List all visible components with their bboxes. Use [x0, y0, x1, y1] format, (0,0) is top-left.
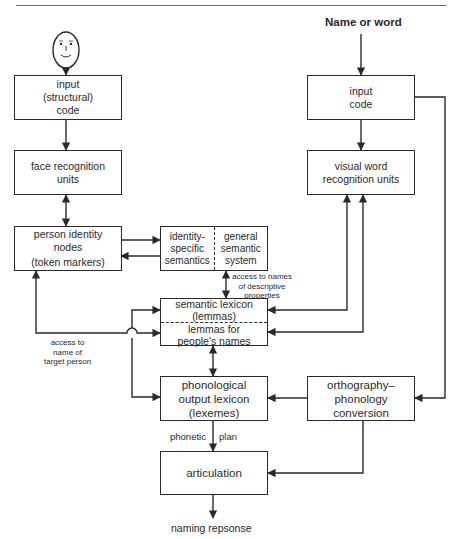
- face-recognition-units-box: face recognition units: [14, 150, 122, 195]
- descriptive-properties-label: access to names of descriptive propertie…: [232, 272, 292, 301]
- visual-word-recognition-units-box: visual word recognition units: [307, 150, 415, 195]
- naming-response-output: naming repsonse: [171, 522, 252, 534]
- phonetic-label: phonetic: [170, 432, 206, 442]
- semantic-lexicon-box: semantic lexicon (lemmas) lemmas for peo…: [160, 298, 268, 346]
- semantic-lexicon-lemmas: semantic lexicon (lemmas): [161, 298, 267, 322]
- target-person-label: access to name of target person: [44, 338, 91, 367]
- lemmas-for-peoples-names: lemmas for people's names: [161, 323, 267, 347]
- semantics-box: identity- specific semantics general sem…: [160, 226, 268, 271]
- phonological-output-lexicon-box: phonological output lexicon (lexemes): [160, 376, 268, 421]
- word-input-title: Name or word: [325, 16, 402, 28]
- general-semantic-system: general semantic system: [215, 231, 268, 267]
- orthography-phonology-conversion-box: orthography– phonology conversion: [307, 376, 415, 421]
- face-icon: [53, 32, 79, 68]
- identity-specific-semantics: identity- specific semantics: [161, 231, 214, 267]
- word-input-code-box: input code: [307, 75, 415, 120]
- face-input-code-box: input (structural) code: [14, 75, 122, 120]
- articulation-box: articulation: [160, 451, 268, 495]
- person-identity-nodes-box: person identity nodes (token markers): [14, 226, 122, 271]
- plan-label: plan: [219, 432, 237, 442]
